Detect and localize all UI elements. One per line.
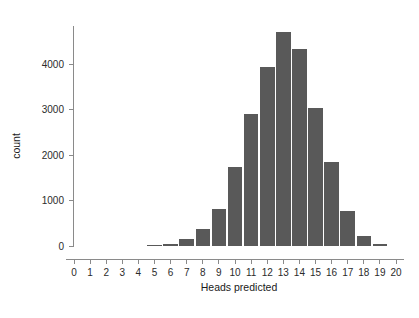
- x-tick-label: 1: [87, 267, 93, 278]
- x-tick-label: 20: [390, 267, 402, 278]
- histogram-bar: [244, 114, 259, 246]
- histogram-bar: [357, 236, 372, 246]
- bars-group: [147, 32, 387, 246]
- y-tick-label: 1000: [42, 195, 65, 206]
- y-ticks-group: 01000200030004000: [42, 59, 74, 252]
- x-tick-label: 3: [120, 267, 126, 278]
- histogram-bar: [179, 239, 194, 246]
- y-tick-label: 0: [58, 241, 64, 252]
- x-tick-label: 17: [342, 267, 354, 278]
- x-tick-label: 14: [294, 267, 306, 278]
- x-tick-label: 8: [200, 267, 206, 278]
- histogram-bar: [228, 167, 243, 246]
- x-tick-label: 12: [262, 267, 274, 278]
- x-tick-label: 19: [374, 267, 386, 278]
- histogram-svg: 01000200030004000 0123456789101112131415…: [0, 0, 419, 318]
- x-tick-label: 16: [326, 267, 338, 278]
- y-tick-label: 3000: [42, 104, 65, 115]
- histogram-bar: [212, 209, 227, 246]
- x-tick-label: 4: [136, 267, 142, 278]
- x-tick-label: 18: [358, 267, 370, 278]
- histogram-bar: [260, 67, 275, 246]
- x-tick-label: 10: [229, 267, 241, 278]
- x-tick-label: 9: [216, 267, 222, 278]
- x-ticks-group: 01234567891011121314151617181920: [71, 260, 402, 279]
- histogram-bar: [308, 108, 323, 246]
- histogram-bar: [147, 245, 162, 246]
- x-tick-label: 6: [168, 267, 174, 278]
- x-tick-label: 7: [184, 267, 190, 278]
- histogram-bar: [324, 162, 339, 246]
- y-tick-label: 4000: [42, 59, 65, 70]
- histogram-bar: [292, 49, 307, 246]
- x-tick-label: 13: [278, 267, 290, 278]
- histogram-plot: 01000200030004000 0123456789101112131415…: [0, 0, 419, 318]
- histogram-bar: [163, 244, 178, 246]
- histogram-bar: [373, 244, 388, 246]
- x-axis-title: Heads predicted: [201, 281, 278, 293]
- x-tick-label: 0: [71, 267, 77, 278]
- y-tick-label: 2000: [42, 150, 65, 161]
- histogram-bar: [340, 211, 355, 246]
- x-tick-label: 11: [246, 267, 257, 278]
- histogram-bar: [196, 229, 211, 246]
- x-tick-label: 15: [310, 267, 322, 278]
- chart-page: 01000200030004000 0123456789101112131415…: [0, 0, 419, 318]
- y-axis-title: count: [10, 133, 22, 159]
- x-tick-label: 2: [103, 267, 109, 278]
- x-tick-label: 5: [152, 267, 158, 278]
- histogram-bar: [276, 32, 291, 246]
